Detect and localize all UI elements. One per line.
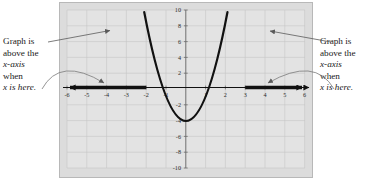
- right-callout: Graph is above the x-axis when x is here…: [320, 36, 355, 94]
- right-callout-line-1: Graph is: [320, 36, 355, 48]
- left-callout: Graph is above the x-axis when x is here…: [3, 36, 38, 94]
- left-callout-line-3: x-axis: [3, 59, 38, 71]
- right-callout-line-5: x is here.: [320, 82, 355, 94]
- left-callout-line-5: x is here.: [3, 82, 38, 94]
- figure-container: Graph is above the x-axis when x is here…: [0, 0, 379, 189]
- left-callout-line-4: when: [3, 71, 38, 83]
- left-callout-line-2: above the: [3, 48, 38, 60]
- plot-panel: [59, 2, 313, 178]
- right-callout-line-4: when: [320, 71, 355, 83]
- right-callout-line-2: above the: [320, 48, 355, 60]
- right-callout-line-3: x-axis: [320, 59, 355, 71]
- left-callout-line-1: Graph is: [3, 36, 38, 48]
